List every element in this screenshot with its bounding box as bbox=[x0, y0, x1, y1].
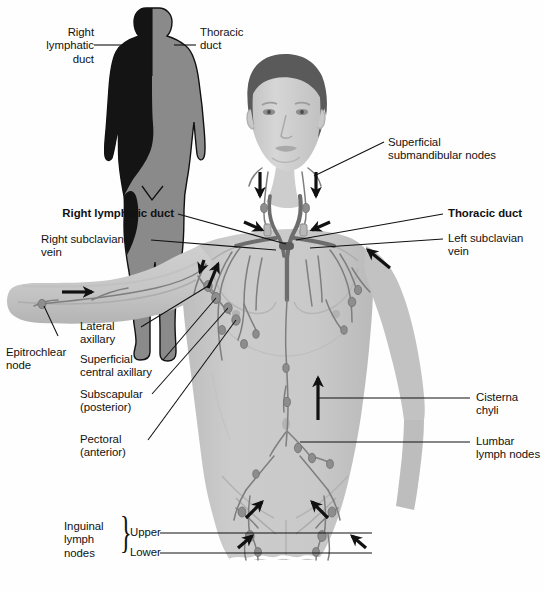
valve-right bbox=[264, 224, 271, 236]
node-lumbar-2 bbox=[308, 453, 315, 463]
arrow-supraclavicular-left bbox=[312, 222, 330, 230]
label-pectoral-anterior: Pectoral (anterior) bbox=[80, 433, 126, 460]
valve-left bbox=[300, 224, 307, 236]
label-right-lymphatic-duct: Right lymphatic duct bbox=[0, 207, 174, 220]
pupil-left bbox=[267, 110, 271, 114]
label-left-subclavian-vein: Left subclavian vein bbox=[448, 232, 523, 259]
arrow-inguinal-left bbox=[352, 536, 366, 548]
node-iliac-r bbox=[253, 470, 259, 478]
navel bbox=[282, 418, 290, 430]
label-superficial-central-axillary: Superficial central axillary bbox=[80, 353, 152, 380]
node-chest-r3 bbox=[253, 330, 259, 338]
thigh-vessel-l bbox=[328, 534, 330, 560]
left-forearm bbox=[396, 420, 424, 510]
node-chest-l1 bbox=[348, 297, 356, 307]
node-inguinal-lower-l bbox=[318, 531, 326, 542]
left-arm bbox=[364, 246, 425, 420]
anatomy-illustration bbox=[0, 0, 545, 591]
main-body-group bbox=[7, 54, 425, 560]
node-lumbar-3 bbox=[327, 460, 334, 469]
node-inguinal-upper-r bbox=[238, 507, 246, 517]
label-inguinal-lower: Lower bbox=[130, 546, 161, 559]
node-cervical-r bbox=[261, 203, 268, 212]
node-cervical-l bbox=[303, 203, 310, 212]
label-inguinal-lymph-nodes: Inguinal lymph nodes bbox=[64, 520, 104, 560]
label-lateral-axillary: Lateral axillary bbox=[80, 320, 115, 347]
label-superficial-submandibular-nodes: Superficial submandibular nodes bbox=[388, 136, 496, 163]
label-epitrochlear-node: Epitrochlear node bbox=[6, 346, 66, 373]
node-lumbar-1 bbox=[294, 443, 301, 453]
label-subscapular-posterior: Subscapular (posterior) bbox=[80, 388, 143, 415]
label-lumbar-lymph-nodes: Lumbar lymph nodes bbox=[476, 435, 540, 462]
node-chest-l3 bbox=[341, 326, 347, 334]
leader-superficial-submandibular bbox=[314, 142, 384, 176]
arrow-supraclavicular-right bbox=[244, 222, 262, 230]
node-chest-r2 bbox=[241, 340, 248, 349]
pupil-right bbox=[300, 110, 304, 114]
node-inguinal-deep-r bbox=[255, 548, 262, 557]
label-inguinal-upper: Upper bbox=[130, 526, 161, 539]
node-inguinal-upper-l bbox=[328, 507, 336, 517]
label-thoracic-duct: Thoracic duct bbox=[448, 207, 522, 220]
inset-label-right-lymphatic-duct: Right lymphatic duct bbox=[26, 26, 94, 66]
node-abdominal-1 bbox=[283, 364, 289, 373]
inset-label-thoracic-duct: Thoracic duct bbox=[200, 26, 243, 53]
node-chest-l2 bbox=[354, 285, 361, 294]
label-cisterna-chyli: Cisterna chyli bbox=[476, 391, 518, 418]
node-chest-r1 bbox=[219, 326, 226, 335]
node-inguinal-deep-l bbox=[313, 548, 320, 557]
node-abdominal-2 bbox=[284, 397, 291, 406]
label-right-subclavian-vein: Right subclavian vein bbox=[41, 233, 124, 260]
lymphatic-system-figure: Right lymphatic duct Thoracic duct Right… bbox=[0, 0, 545, 591]
